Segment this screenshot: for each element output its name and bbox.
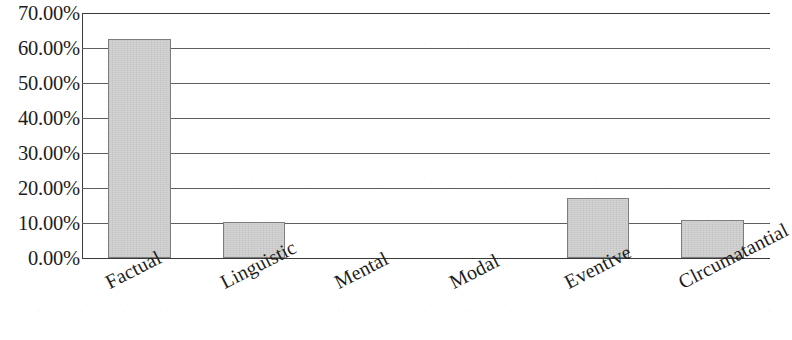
y-axis-tick-label: 30.00%: [0, 143, 80, 164]
gridline: [82, 153, 770, 154]
gridline: [82, 48, 770, 49]
x-axis-tick-labels: FactualLinguisticMentalModalEventiveClrc…: [82, 258, 770, 340]
y-axis-tick-label: 10.00%: [0, 213, 80, 234]
gridline: [82, 223, 770, 224]
y-axis-tick-label: 60.00%: [0, 38, 80, 59]
gridline: [82, 83, 770, 84]
gridline: [82, 118, 770, 119]
y-axis-tick-label: 20.00%: [0, 178, 80, 199]
plot-area: [82, 13, 770, 258]
gridline: [82, 13, 770, 14]
y-axis-tick-labels: 0.00%10.00%20.00%30.00%40.00%50.00%60.00…: [0, 0, 80, 340]
bar: [108, 39, 170, 258]
y-axis-line: [82, 13, 83, 258]
y-axis-tick-label: 50.00%: [0, 73, 80, 94]
y-axis-tick-label: 40.00%: [0, 108, 80, 129]
y-axis-tick-label: 70.00%: [0, 3, 80, 24]
gridline: [82, 188, 770, 189]
y-axis-tick-label: 0.00%: [0, 248, 80, 269]
